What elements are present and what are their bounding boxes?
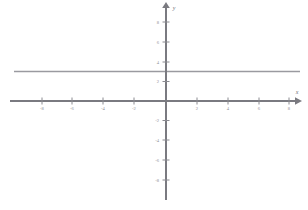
x-tick-label-pos8: 8 — [288, 106, 291, 111]
x-tick-label-neg4: -4 — [101, 106, 106, 111]
x-tick-label-neg2: -2 — [132, 106, 137, 111]
y-tick-label-neg2: -2 — [155, 118, 160, 123]
y-tick-label-neg6: -6 — [155, 158, 160, 163]
y-tick-label-pos2: 2 — [157, 79, 160, 84]
x-tick-label-neg6: -6 — [70, 106, 75, 111]
y-tick-label-neg4: -4 — [155, 138, 160, 143]
y-axis-arrowhead — [162, 2, 170, 8]
x-tick-label-pos2: 2 — [196, 106, 199, 111]
y-tick-label-pos8: 8 — [157, 20, 160, 25]
x-axis-label: x — [295, 89, 299, 95]
y-tick-label-pos4: 4 — [157, 60, 160, 65]
plot-area: -8 -6 -4 -2 2 4 6 8 8 6 4 2 -2 -4 -6 -8 … — [0, 0, 308, 210]
coordinate-plane-figure: -8 -6 -4 -2 2 4 6 8 8 6 4 2 -2 -4 -6 -8 … — [0, 0, 308, 210]
y-tick-label-pos6: 6 — [157, 40, 160, 45]
x-tick-label-pos4: 4 — [227, 106, 230, 111]
x-tick-label-pos6: 6 — [258, 106, 261, 111]
y-axis-label: y — [172, 5, 176, 11]
x-tick-label-neg8: -8 — [40, 106, 45, 111]
y-tick-label-neg8: -8 — [155, 178, 160, 183]
x-axis-arrowhead — [295, 97, 302, 105]
